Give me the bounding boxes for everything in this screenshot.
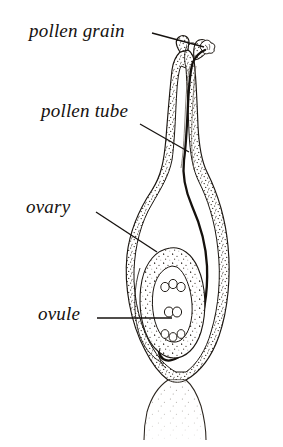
label-ovary: ovary — [26, 196, 70, 218]
pistil-diagram — [0, 0, 283, 447]
figure-canvas: pollen grain pollen tube ovary ovule — [0, 0, 283, 447]
label-pollen-grain: pollen grain — [29, 20, 125, 42]
label-pollen-tube: pollen tube — [41, 100, 128, 122]
stalk — [144, 380, 206, 440]
label-ovule: ovule — [38, 303, 80, 325]
